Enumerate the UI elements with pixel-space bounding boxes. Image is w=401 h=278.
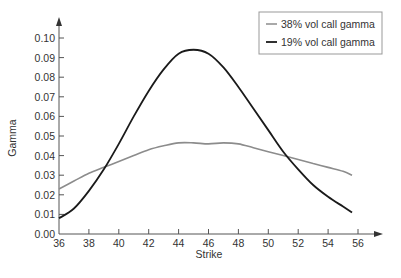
x-axis-title: Strike [196, 248, 223, 260]
gamma-line-chart: 0.000.010.020.030.040.050.060.070.080.09… [0, 0, 401, 278]
y-tick-label: 0.10 [35, 32, 56, 44]
x-axis-arrow-icon [374, 231, 383, 237]
y-tick-label: 0.00 [35, 228, 56, 240]
y-tick-label: 0.03 [35, 169, 56, 181]
x-tick-label: 48 [233, 237, 245, 249]
y-tick-label: 0.07 [35, 91, 56, 103]
y-tick-label: 0.01 [35, 208, 56, 220]
y-axis-title: Gamma [6, 119, 18, 157]
legend-label-38-vol: 38% vol call gamma [281, 18, 375, 30]
x-tick-label: 52 [292, 237, 304, 249]
y-tick-label: 0.05 [35, 130, 56, 142]
x-tick-label: 38 [83, 237, 95, 249]
x-tick-label: 54 [322, 237, 334, 249]
y-tick-label: 0.06 [35, 110, 56, 122]
x-tick-label: 56 [352, 237, 364, 249]
x-tick-label: 44 [173, 237, 185, 249]
y-tick-label: 0.09 [35, 52, 56, 64]
x-tick-label: 40 [113, 237, 125, 249]
series-lines [59, 50, 352, 219]
y-axis-arrow-icon [56, 17, 62, 26]
series-38-vol-line [59, 143, 352, 189]
x-tick-label: 42 [143, 237, 155, 249]
y-tick-label: 0.08 [35, 71, 56, 83]
legend-label-19-vol: 19% vol call gamma [281, 36, 375, 48]
legend: 38% vol call gamma 19% vol call gamma [259, 12, 382, 54]
x-tick-label: 36 [53, 237, 65, 249]
series-19-vol-line [59, 50, 352, 219]
y-tick-label: 0.02 [35, 189, 56, 201]
y-tick-label: 0.04 [35, 150, 56, 162]
x-tick-label: 50 [262, 237, 274, 249]
